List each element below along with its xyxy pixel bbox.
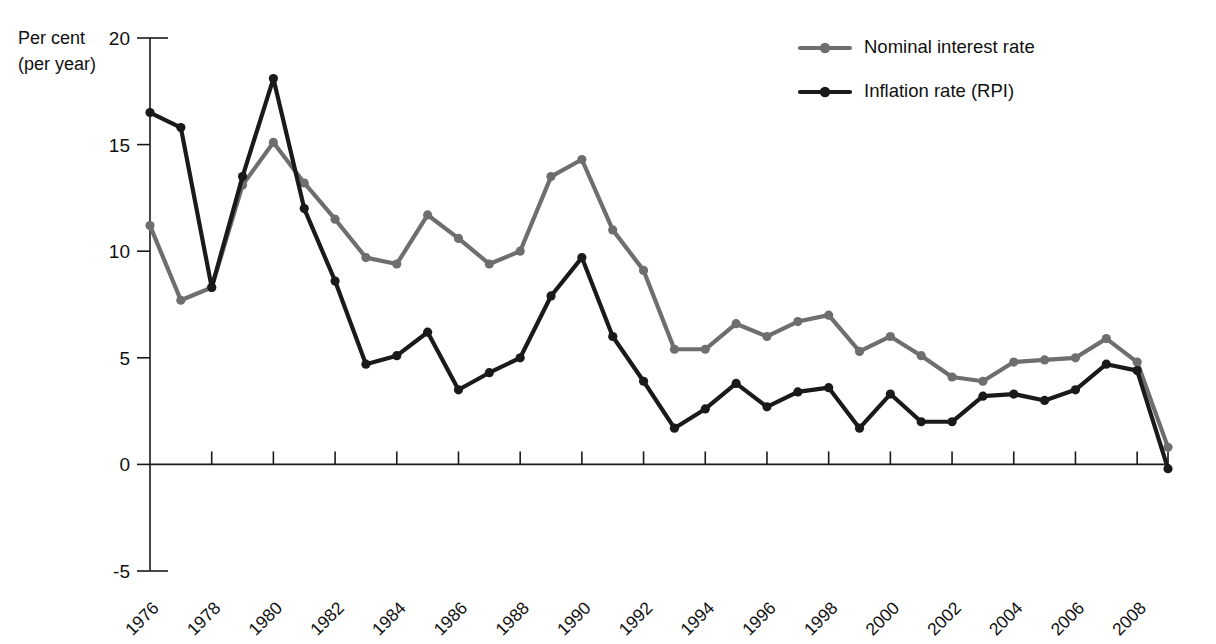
y-axis-title: Per cent (per year) [18, 28, 96, 74]
x-axis-tick-label: 1988 [491, 598, 533, 640]
x-axis-tick-label: 1998 [800, 598, 842, 640]
data-point [608, 332, 617, 341]
data-point [824, 383, 833, 392]
data-point [762, 332, 771, 341]
data-point [361, 253, 370, 262]
data-point [917, 417, 926, 426]
data-point [824, 311, 833, 320]
data-point [793, 387, 802, 396]
series-inflation-rate-rpi [145, 74, 1172, 473]
data-point [732, 379, 741, 388]
y-axis-tick-label: 5 [119, 348, 130, 369]
data-point [361, 360, 370, 369]
legend-label: Nominal interest rate [864, 36, 1035, 57]
data-point [732, 319, 741, 328]
data-point [145, 221, 154, 230]
x-axis: 1976197819801982198419861988199019921994… [121, 451, 1168, 639]
chart-container: Per cent (per year) 20151050-5 197619781… [0, 0, 1216, 644]
x-axis-tick-label: 1986 [430, 598, 472, 640]
data-point [639, 266, 648, 275]
x-axis-tick-label: 1996 [738, 598, 780, 640]
data-point [978, 392, 987, 401]
chart-legend: Nominal interest rateInflation rate (RPI… [800, 36, 1035, 101]
data-point [454, 385, 463, 394]
data-point [1040, 396, 1049, 405]
line-chart: Per cent (per year) 20151050-5 197619781… [0, 0, 1216, 644]
x-axis-tick-label: 1990 [553, 598, 595, 640]
data-point [917, 351, 926, 360]
data-point [207, 283, 216, 292]
y-axis-title-line2: (per year) [18, 54, 96, 74]
data-point [1102, 334, 1111, 343]
data-point [1163, 443, 1172, 452]
y-axis-title-line1: Per cent [18, 28, 85, 48]
data-point [1009, 389, 1018, 398]
data-point [947, 372, 956, 381]
x-axis-tick-label: 2006 [1047, 598, 1089, 640]
data-point [762, 402, 771, 411]
data-point [978, 377, 987, 386]
data-point [855, 347, 864, 356]
data-point [670, 345, 679, 354]
x-axis-tick-label: 1982 [306, 598, 348, 640]
data-point [423, 210, 432, 219]
data-point [886, 332, 895, 341]
data-point [947, 417, 956, 426]
data-point [639, 377, 648, 386]
y-axis: 20151050-5 [109, 28, 168, 582]
x-axis-tick-label: 1980 [245, 598, 287, 640]
data-point [423, 328, 432, 337]
y-axis-tick-label: -5 [113, 561, 130, 582]
data-point [1133, 357, 1142, 366]
data-point [608, 225, 617, 234]
legend-item[interactable]: Inflation rate (RPI) [800, 80, 1014, 101]
legend-marker-icon [820, 43, 830, 53]
legend-label: Inflation rate (RPI) [864, 80, 1014, 101]
legend-marker-icon [820, 87, 830, 97]
data-point [546, 172, 555, 181]
data-point [701, 404, 710, 413]
y-axis-tick-label: 10 [109, 241, 130, 262]
data-point [793, 317, 802, 326]
x-axis-tick-label: 1984 [368, 598, 410, 640]
data-point [330, 276, 339, 285]
data-point [670, 424, 679, 433]
data-point [330, 215, 339, 224]
legend-item[interactable]: Nominal interest rate [800, 36, 1035, 57]
data-point [516, 247, 525, 256]
data-point [145, 108, 154, 117]
x-axis-tick-label: 2000 [862, 598, 904, 640]
x-axis-tick-label: 1992 [615, 598, 657, 640]
x-axis-tick-label: 2002 [923, 598, 965, 640]
data-point [176, 123, 185, 132]
data-point [300, 204, 309, 213]
data-point [454, 234, 463, 243]
data-point [516, 353, 525, 362]
series-group [145, 74, 1172, 473]
data-point [485, 259, 494, 268]
y-axis-tick-label: 15 [109, 135, 130, 156]
data-point [238, 172, 247, 181]
data-point [1071, 353, 1080, 362]
data-point [546, 291, 555, 300]
series-line [150, 79, 1168, 469]
y-axis-tick-label: 20 [109, 28, 130, 49]
y-axis-tick-label: 0 [119, 454, 130, 475]
data-point [855, 424, 864, 433]
data-point [1163, 464, 1172, 473]
data-point [392, 351, 401, 360]
x-axis-tick-label: 1994 [676, 598, 718, 640]
data-point [1009, 357, 1018, 366]
data-point [269, 74, 278, 83]
x-axis-tick-label: 1976 [121, 598, 163, 640]
x-axis-tick-label: 2008 [1108, 598, 1150, 640]
data-point [1040, 355, 1049, 364]
data-point [485, 368, 494, 377]
x-axis-tick-label: 1978 [183, 598, 225, 640]
data-point [1071, 385, 1080, 394]
data-point [701, 345, 710, 354]
data-point [176, 296, 185, 305]
data-point [577, 155, 586, 164]
data-point [269, 138, 278, 147]
x-axis-tick-label: 2004 [985, 598, 1027, 640]
